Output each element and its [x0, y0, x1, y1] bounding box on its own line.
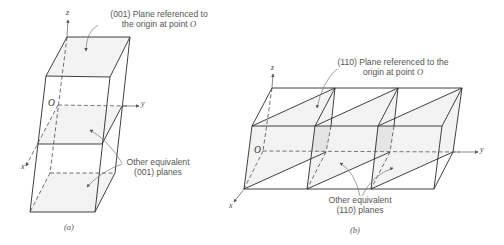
panel-b-equivalent-label: Other equivalent (110) planes: [324, 195, 396, 215]
panel-a-unit-cells: [26, 20, 139, 212]
bottom-001-plane: [30, 173, 115, 212]
panel-b-y-axis-label: y: [480, 145, 484, 154]
panel-a-y-axis-label: y: [141, 99, 145, 108]
panel-b-z-axis-label: z: [271, 63, 274, 72]
panel-b-origin-label: O: [254, 145, 261, 155]
panel-a-plane-label-line2-text: the origin at point: [122, 19, 190, 29]
panel-b-plane-label-point: O: [417, 67, 423, 77]
panel-a-plane-label-point: O: [190, 19, 196, 29]
panel-a-plane-label: (001) Plane referenced to the origin at …: [103, 9, 215, 29]
crystal-planes-figure: z y x O (001) Plane referenced to the or…: [0, 0, 504, 245]
panel-b-plane-label-line1: (110) Plane referenced to the: [332, 57, 454, 67]
top-001-plane: [46, 37, 130, 77]
panel-a-plane-label-line1: (001) Plane referenced to: [103, 9, 215, 19]
panel-a-equivalent-line2: (001) planes: [122, 167, 194, 177]
panel-b-plane-label-line2: origin at point O: [332, 67, 454, 77]
panel-a-caption: (a): [64, 222, 74, 232]
panel-b-x-axis-label: x: [229, 201, 233, 210]
panel-a-origin-label: O: [48, 98, 55, 108]
panel-a-equivalent-line1: Other equivalent: [122, 157, 194, 167]
figure-drawing: [0, 0, 504, 245]
panel-a-x-axis-label: x: [21, 162, 25, 171]
panel-b-plane-label: (110) Plane referenced to the origin at …: [332, 57, 454, 77]
panel-b-equivalent-line2: (110) planes: [324, 205, 396, 215]
panel-a-equivalent-label: Other equivalent (001) planes: [122, 157, 194, 177]
panel-a-plane-label-line2: the origin at point O: [103, 19, 215, 29]
panel-b-equivalent-line1: Other equivalent: [324, 195, 396, 205]
panel-b-unit-cells: [234, 69, 478, 202]
panel-b-plane-label-line2-text: origin at point: [363, 67, 417, 77]
panel-b-caption: (b): [350, 225, 360, 235]
middle-001-plane: [37, 105, 122, 144]
panel-a-z-axis-label: z: [66, 8, 69, 17]
